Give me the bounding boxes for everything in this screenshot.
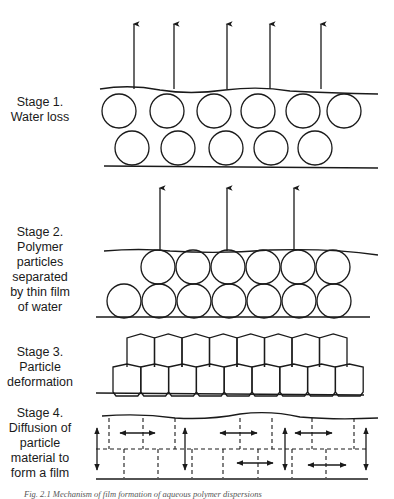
substrate-line [96,393,364,395]
particle [197,94,231,128]
particle [317,284,351,318]
particle [209,131,243,165]
particle [142,284,176,318]
particle [254,131,288,165]
particle [298,131,332,165]
particle [161,131,195,165]
particle [150,94,184,128]
deformed-particle [292,334,320,367]
deformed-particle [224,364,252,396]
deformed-particle [141,364,169,396]
deformed-particle [210,334,238,367]
particle [246,250,280,284]
particle [286,94,320,128]
deformed-particle [265,334,293,367]
deformed-particle [113,364,141,396]
deformed-particle [252,364,280,396]
particle [102,94,136,128]
particle [247,284,281,318]
deformed-particle [308,364,336,396]
deformed-particle [182,334,210,367]
particle [107,284,141,318]
stage-2-particles [96,188,378,318]
film-surface-line [102,413,378,419]
deformed-particle [196,364,224,396]
stage-3-deformation [96,334,364,396]
film-formation-diagram [0,0,394,499]
deformed-particle [335,364,363,396]
deformed-particle [169,364,197,396]
stage-4-diffusion [96,413,378,479]
particle [211,250,245,284]
particle [115,131,149,165]
particle [212,284,246,318]
particle [316,250,350,284]
particle [176,250,210,284]
particle [177,284,211,318]
deformed-particle [127,334,155,367]
particle [282,284,316,318]
figure-caption: Fig. 2.1 Mechanism of film formation of … [24,489,262,499]
particle [241,94,275,128]
particle [327,94,361,128]
deformed-particle [155,334,183,367]
deformed-particle [320,334,348,367]
stage-1-water-loss [100,24,378,168]
particle [281,250,315,284]
substrate-line [104,166,378,168]
deformed-particle [237,334,265,367]
particle [141,250,175,284]
deformed-particle [280,364,308,396]
water-surface-line [100,87,378,94]
